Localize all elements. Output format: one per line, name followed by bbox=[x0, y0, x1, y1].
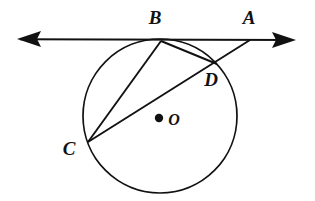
geometry-figure: B A D C O bbox=[0, 0, 315, 201]
center-point-dot bbox=[155, 114, 163, 122]
segment-bc bbox=[88, 41, 161, 142]
label-center-o: O bbox=[168, 111, 180, 128]
label-point-a: A bbox=[242, 7, 256, 28]
tangent-line bbox=[20, 39, 293, 40]
label-point-d: D bbox=[203, 69, 218, 90]
label-point-c: C bbox=[63, 138, 76, 159]
geometry-canvas: B A D C O bbox=[0, 0, 315, 201]
label-point-b: B bbox=[148, 7, 162, 28]
